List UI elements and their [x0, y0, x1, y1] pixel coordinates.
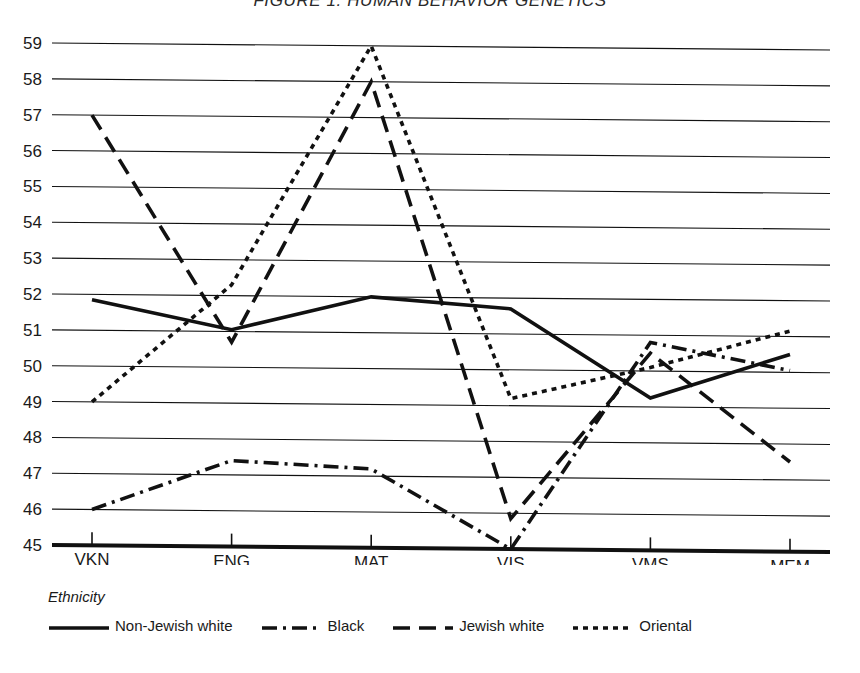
legend-entry[interactable]: Jewish white — [392, 617, 544, 634]
gridline — [52, 258, 830, 265]
xtick-label: ENG — [213, 552, 250, 565]
legend-entries: Non-Jewish whiteBlackJewish whiteOrienta… — [48, 617, 848, 634]
gridline — [52, 186, 830, 193]
legend-swatch-icon — [261, 620, 323, 632]
gridline — [52, 115, 830, 122]
ytick-labels-group: 454647484950515253545556575859 — [23, 34, 42, 555]
ytick-label: 57 — [23, 106, 42, 125]
series-line — [92, 342, 790, 549]
legend-label: Jewish white — [459, 617, 544, 634]
legend: Ethnicity Non-Jewish whiteBlackJewish wh… — [48, 588, 848, 634]
ytick-label: 56 — [23, 142, 42, 161]
ytick-label: 46 — [23, 500, 42, 519]
ytick-label: 50 — [23, 357, 42, 376]
x-axis-line — [52, 545, 830, 552]
chart-title: FIGURE 1. HUMAN BEHAVIOR GENETICS — [0, 0, 860, 7]
legend-label: Oriental — [639, 617, 692, 634]
ytick-label: 53 — [23, 249, 42, 268]
figure-container: FIGURE 1. HUMAN BEHAVIOR GENETICS 454647… — [0, 0, 860, 673]
legend-entry[interactable]: Black — [261, 617, 365, 634]
xtick-label: MEM — [770, 557, 810, 565]
legend-swatch-icon — [392, 620, 454, 632]
ytick-label: 47 — [23, 464, 42, 483]
gridline — [52, 473, 830, 480]
xtick-label: MAT — [354, 553, 389, 565]
ytick-label: 55 — [23, 177, 42, 196]
legend-title: Ethnicity — [48, 588, 848, 605]
gridline — [52, 366, 830, 373]
ytick-label: 59 — [23, 34, 42, 53]
gridline — [52, 43, 830, 50]
ytick-label: 51 — [23, 321, 42, 340]
ytick-label: 49 — [23, 393, 42, 412]
ytick-label: 45 — [23, 536, 42, 555]
legend-entry[interactable]: Oriental — [572, 617, 692, 634]
xtick-label: VIS — [497, 554, 524, 565]
ytick-label: 52 — [23, 285, 42, 304]
ytick-label: 58 — [23, 70, 42, 89]
xtick-label: VMS — [632, 555, 669, 565]
gridline — [52, 437, 830, 444]
series-line — [92, 297, 790, 398]
gridline — [52, 151, 830, 158]
gridline — [52, 402, 830, 409]
data-series-group — [92, 46, 790, 549]
gridline — [52, 79, 830, 86]
ytick-label: 54 — [23, 213, 42, 232]
legend-label: Black — [328, 617, 365, 634]
xtick-label: VKN — [75, 550, 110, 565]
legend-entry[interactable]: Non-Jewish white — [48, 617, 233, 634]
plot-area: 454647484950515253545556575859 VKNENGMAT… — [0, 20, 860, 565]
line-chart-svg: 454647484950515253545556575859 VKNENGMAT… — [0, 20, 860, 565]
legend-swatch-icon — [572, 620, 634, 632]
ytick-label: 48 — [23, 428, 42, 447]
legend-swatch-icon — [48, 620, 110, 632]
legend-label: Non-Jewish white — [115, 617, 233, 634]
